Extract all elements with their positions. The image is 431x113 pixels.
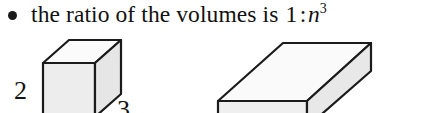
bullet-list-item: the ratio of the volumes is1:n3 [0,0,431,31]
volume-ratio-formula: 1:n3 [285,1,326,27]
bullet-item-sentence: the ratio of the volumes is [31,1,278,27]
large-cuboid-front-face [218,101,307,113]
figure-page: the ratio of the volumes is1:n3 [0,0,431,113]
bullet-item-text: the ratio of the volumes is1:n3 [31,0,327,29]
small-cuboid-depth-label: 3 [117,97,130,113]
formula-left-term: 1 [285,1,297,27]
formula-right-exponent: 3 [320,1,327,16]
small-cuboid-height-label: 2 [14,78,27,104]
large-cuboid [218,43,371,113]
cuboid-diagrams-svg [0,31,431,113]
bullet-dot-icon [8,11,17,20]
small-cuboid [43,40,121,113]
formula-right-base: n [308,1,320,27]
small-cuboid-front-face [43,63,95,113]
formula-ratio-separator: : [300,1,307,27]
figure-row: 2 3 [0,31,431,113]
